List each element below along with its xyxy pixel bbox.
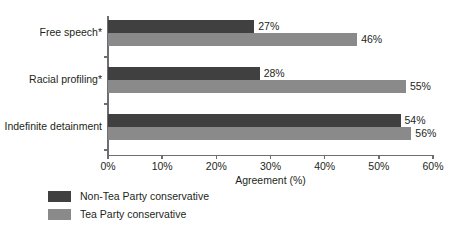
bar-value-nontea-racial-profiling: 28%	[264, 67, 285, 80]
x-axis-tick-label: 0%	[88, 160, 128, 172]
x-axis-tick	[324, 155, 326, 159]
bar-tea-free-speech	[108, 33, 357, 46]
x-axis-tick	[270, 155, 272, 159]
y-axis-tick	[104, 56, 108, 58]
x-axis-tick-label: 50%	[359, 160, 399, 172]
category-label-free-speech: Free speech*	[0, 26, 102, 38]
bar-nontea-racial-profiling	[108, 67, 260, 80]
category-label-indefinite-detainment: Indefinite detainment	[0, 120, 102, 132]
bar-tea-indefinite-detainment	[108, 127, 411, 140]
x-axis-tick	[216, 155, 218, 159]
bar-value-tea-free-speech: 46%	[361, 33, 382, 46]
bar-nontea-indefinite-detainment	[108, 114, 401, 127]
x-axis-tick-label: 20%	[196, 160, 236, 172]
x-axis-tick-label: 60%	[413, 160, 453, 172]
x-axis-tick-label: 40%	[305, 160, 345, 172]
y-axis-tick	[104, 103, 108, 105]
bar-value-tea-indefinite-detainment: 56%	[415, 127, 436, 140]
x-axis-tick	[432, 155, 434, 159]
x-axis-title: Agreement (%)	[108, 174, 433, 186]
x-axis-tick-label: 10%	[142, 160, 182, 172]
legend-swatch-icon	[48, 191, 71, 202]
legend-label-tea-party: Tea Party conservative	[80, 207, 186, 222]
bar-chart: Free speech* Racial profiling* Indefinit…	[0, 0, 454, 231]
bar-value-nontea-indefinite-detainment: 54%	[405, 114, 426, 127]
bar-value-tea-racial-profiling: 55%	[410, 80, 431, 93]
bar-tea-racial-profiling	[108, 80, 406, 93]
y-axis-tick	[104, 149, 108, 151]
x-axis-tick-label: 30%	[251, 160, 291, 172]
x-axis-tick	[378, 155, 380, 159]
x-axis-tick	[107, 155, 109, 159]
legend-swatch-icon	[48, 209, 71, 220]
x-axis-tick	[161, 155, 163, 159]
category-label-racial-profiling: Racial profiling*	[0, 73, 102, 85]
bar-value-nontea-free-speech: 27%	[258, 20, 279, 33]
legend-label-non-tea-party: Non-Tea Party conservative	[80, 189, 209, 204]
bar-nontea-free-speech	[108, 20, 254, 33]
plot-area: 27% 46% 28% 55% 54% 56%	[108, 16, 433, 155]
